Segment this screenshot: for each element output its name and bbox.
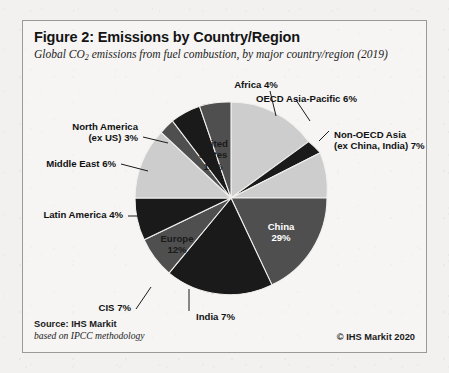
pie-label-africa: Africa 4% [221, 79, 291, 90]
pie-chart: Africa 4% OECD Asia-Pacific 6% Non-OECD … [23, 21, 428, 354]
pie-label-latin-america: Latin America 4% [23, 209, 123, 220]
leader-line-cis [136, 287, 151, 309]
pie-label-india: India 7% [196, 311, 235, 322]
pie-label-china: China 29% [251, 221, 311, 244]
methodology-line: based on IPCC methodology [34, 330, 145, 342]
leader-line-non-oecd-asia [319, 131, 329, 141]
pie-label-north-america: North America (ex US) 3% [29, 121, 138, 144]
source-line: Source: IHS Markit [34, 318, 145, 330]
figure-frame: Figure 2: Emissions by Country/Region Gl… [22, 20, 427, 353]
pie-label-cis: CIS 7% [63, 302, 131, 313]
copyright-note: © IHS Markit 2020 [337, 332, 415, 342]
pie-label-oecd-asia-pacific: OECD Asia-Pacific 6% [256, 93, 357, 104]
pie-label-middle-east: Middle East 6% [23, 158, 116, 169]
pie-slices [135, 102, 327, 295]
pie-label-europe: Europe 12% [147, 233, 207, 256]
pie-label-united-states: United States 15% [176, 138, 250, 172]
pie-label-non-oecd-asia: Non-OECD Asia (ex China, India) 7% [334, 129, 425, 152]
source-block: Source: IHS Markit based on IPCC methodo… [34, 318, 145, 342]
